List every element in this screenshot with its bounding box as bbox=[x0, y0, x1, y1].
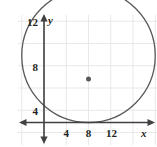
coordinate-plane-svg: 12 8 4 4 8 12 y x bbox=[0, 0, 157, 147]
y-axis-arrow-up-icon bbox=[40, 14, 47, 22]
y-tick-label-8: 8 bbox=[33, 61, 39, 73]
x-axis-label: x bbox=[140, 127, 147, 139]
y-axis-label: y bbox=[46, 14, 53, 26]
coordinate-plane-figure: 12 8 4 4 8 12 y x bbox=[0, 0, 157, 147]
x-axis-arrow-left-icon bbox=[19, 119, 27, 126]
x-tick-label-12: 12 bbox=[106, 127, 118, 139]
y-tick-label-12: 12 bbox=[27, 16, 39, 28]
y-axis-arrow-down-icon bbox=[40, 137, 47, 145]
x-tick-label-8: 8 bbox=[86, 127, 92, 139]
y-tick-label-4: 4 bbox=[33, 105, 39, 117]
x-axis-arrow-right-icon bbox=[148, 119, 156, 126]
circle-center-point bbox=[86, 76, 91, 81]
x-tick-label-4: 4 bbox=[64, 127, 70, 139]
